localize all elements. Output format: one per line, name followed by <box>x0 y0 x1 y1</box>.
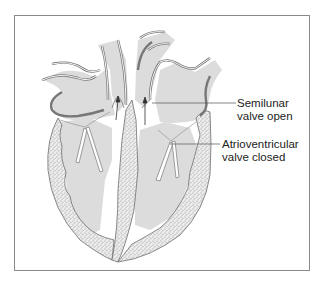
label-line: Semilunar <box>237 97 293 110</box>
label-atrioventricular-valve: Atrioventricular valve closed <box>222 138 299 163</box>
label-semilunar-valve: Semilunar valve open <box>237 97 293 122</box>
label-line: Atrioventricular <box>222 138 299 151</box>
label-line: valve open <box>237 110 293 123</box>
label-line: valve closed <box>222 151 299 164</box>
